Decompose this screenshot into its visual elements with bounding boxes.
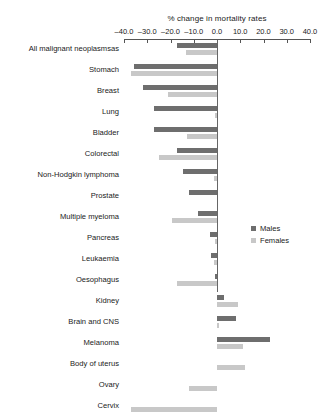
x-tick-label: –30.0 — [138, 27, 157, 36]
bar-females — [217, 344, 243, 349]
bar-females — [217, 302, 238, 307]
bar-males — [154, 127, 217, 132]
bar-males — [198, 211, 217, 216]
legend-item-males: Males — [251, 223, 321, 233]
bar-males — [134, 64, 217, 69]
category-label: Stomach — [0, 65, 119, 74]
chart-row — [124, 187, 310, 208]
bar-females — [217, 365, 245, 370]
plot-area — [124, 40, 310, 292]
bar-females — [214, 176, 217, 181]
bar-females — [131, 71, 217, 76]
category-label: Multiple myeloma — [0, 212, 119, 221]
legend-label-females: Females — [260, 236, 289, 245]
chart-row — [124, 250, 310, 271]
bar-females — [177, 281, 217, 286]
category-label: Leukaemia — [0, 254, 119, 263]
category-label: Brain and CNS — [0, 317, 119, 326]
x-tick-label: 10.0 — [233, 27, 248, 36]
category-label: Non-Hodgkin lymphoma — [0, 170, 119, 179]
category-label: Kidney — [0, 296, 119, 305]
x-tick-label: 20.0 — [256, 27, 271, 36]
legend-swatch-males — [251, 226, 256, 231]
bar-females — [215, 239, 217, 244]
chart-row — [124, 271, 310, 292]
x-tick-label: 0.0 — [212, 27, 222, 36]
chart-row — [124, 334, 310, 355]
category-label: Ovary — [0, 380, 119, 389]
chart-row — [124, 82, 310, 103]
bar-females — [168, 92, 217, 97]
category-label: Colorectal — [0, 149, 119, 158]
category-label: Cervix — [0, 401, 119, 410]
bar-males — [210, 232, 217, 237]
chart-row — [124, 397, 310, 416]
legend-label-males: Males — [260, 224, 280, 233]
x-tick-label: –20.0 — [161, 27, 180, 36]
category-label: Oesophagus — [0, 275, 119, 284]
x-tick-label: 30.0 — [279, 27, 294, 36]
category-label: Pancreas — [0, 233, 119, 242]
chart-row — [124, 166, 310, 187]
bar-females — [187, 134, 217, 139]
chart-row — [124, 313, 310, 334]
bar-females — [159, 155, 217, 160]
category-label: Body of uterus — [0, 359, 119, 368]
bar-females — [217, 323, 219, 328]
category-label: Bladder — [0, 128, 119, 137]
chart-axis-title: % change in mortality rates — [124, 14, 310, 23]
chart-row — [124, 40, 310, 61]
bar-males — [217, 295, 224, 300]
bar-females — [186, 50, 217, 55]
chart-row — [124, 124, 310, 145]
bar-males — [177, 43, 217, 48]
chart-row — [124, 103, 310, 124]
bar-females — [214, 260, 217, 265]
chart-row — [124, 292, 310, 313]
bar-males — [215, 274, 217, 279]
category-label: Melanoma — [0, 338, 119, 347]
x-axis: –40.0–30.0–20.0–10.00.010.020.030.040.0 — [0, 27, 327, 41]
x-tick-label: –10.0 — [184, 27, 203, 36]
category-labels: All malignant neoplasmsasStomachBreastLu… — [0, 40, 119, 292]
x-tick-mark — [310, 39, 311, 43]
x-tick-label: –40.0 — [115, 27, 134, 36]
x-tick-label: 40.0 — [303, 27, 318, 36]
category-label: All malignant neoplasmsas — [0, 44, 119, 53]
category-label: Breast — [0, 86, 119, 95]
bar-males — [177, 148, 217, 153]
bar-males — [143, 85, 217, 90]
bar-males — [217, 337, 270, 342]
chart-row — [124, 355, 310, 376]
bar-males — [183, 169, 217, 174]
chart-row — [124, 145, 310, 166]
bar-males — [217, 316, 236, 321]
bar-females — [172, 218, 217, 223]
chart-legend: Males Females — [251, 223, 321, 247]
chart-row — [124, 376, 310, 397]
category-label: Lung — [0, 107, 119, 116]
legend-swatch-females — [251, 238, 256, 243]
bar-males — [211, 253, 217, 258]
bar-males — [189, 190, 217, 195]
bar-females — [189, 386, 217, 391]
bar-females — [215, 113, 217, 118]
legend-item-females: Females — [251, 235, 321, 245]
bar-males — [154, 106, 217, 111]
category-label: Prostate — [0, 191, 119, 200]
chart-row — [124, 61, 310, 82]
bar-females — [131, 407, 217, 412]
